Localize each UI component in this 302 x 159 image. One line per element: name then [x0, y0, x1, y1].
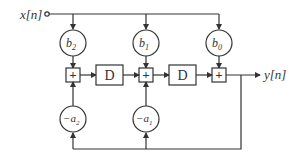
svg-text:D: D: [104, 68, 114, 83]
delay-2: D: [169, 65, 196, 85]
svg-text:+: +: [215, 67, 222, 82]
svg-text:+: +: [69, 67, 76, 82]
gain-b1: b1: [133, 30, 159, 56]
svg-text:D: D: [177, 68, 187, 83]
input-terminal: [45, 12, 49, 16]
gain-neg-a1: −a1: [133, 106, 159, 132]
delay-1: D: [96, 65, 123, 85]
adder-2: +: [139, 67, 153, 82]
block-diagram: x[n] b2 b1 b0 + + + D: [0, 0, 302, 159]
svg-text:+: +: [142, 67, 149, 82]
gain-b0: b0: [206, 30, 232, 56]
gain-neg-a2: −a2: [60, 106, 86, 132]
input-label: x[n]: [19, 7, 42, 22]
adder-1: +: [66, 67, 80, 82]
output-label: y[n]: [262, 67, 286, 82]
gain-b2: b2: [60, 30, 86, 56]
adder-3: +: [212, 67, 226, 82]
